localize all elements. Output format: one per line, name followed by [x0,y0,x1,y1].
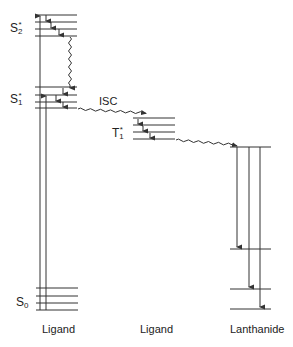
isc-label: ISC [99,96,117,107]
diagram-graphics [0,0,293,347]
s0-levels [36,288,78,310]
column-label-ligand-triplet: Ligand [140,324,173,335]
state-label-s1: S1* [10,92,22,107]
lanthanide-levels [230,147,271,309]
t1-levels [133,118,175,139]
state-label-s0: S0 [16,296,28,310]
column-label-lanthanide: Lanthanide [230,324,284,335]
state-label-s2: S2* [10,21,22,36]
column-label-ligand-singlet: Ligand [42,324,75,335]
state-label-t1: T1* [112,126,123,141]
energy-level-diagram: S2* S1* T1* S0 ISC Ligand Ligand Lanthan… [0,0,293,347]
s2-levels [35,15,77,36]
